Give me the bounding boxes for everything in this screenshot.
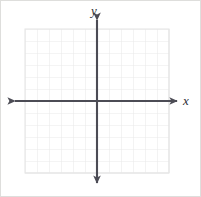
x-axis-label: x — [183, 94, 189, 107]
coordinate-plane-canvas — [1, 1, 201, 197]
coordinate-plane-figure: y x — [0, 0, 201, 197]
y-axis-label: y — [91, 4, 97, 17]
